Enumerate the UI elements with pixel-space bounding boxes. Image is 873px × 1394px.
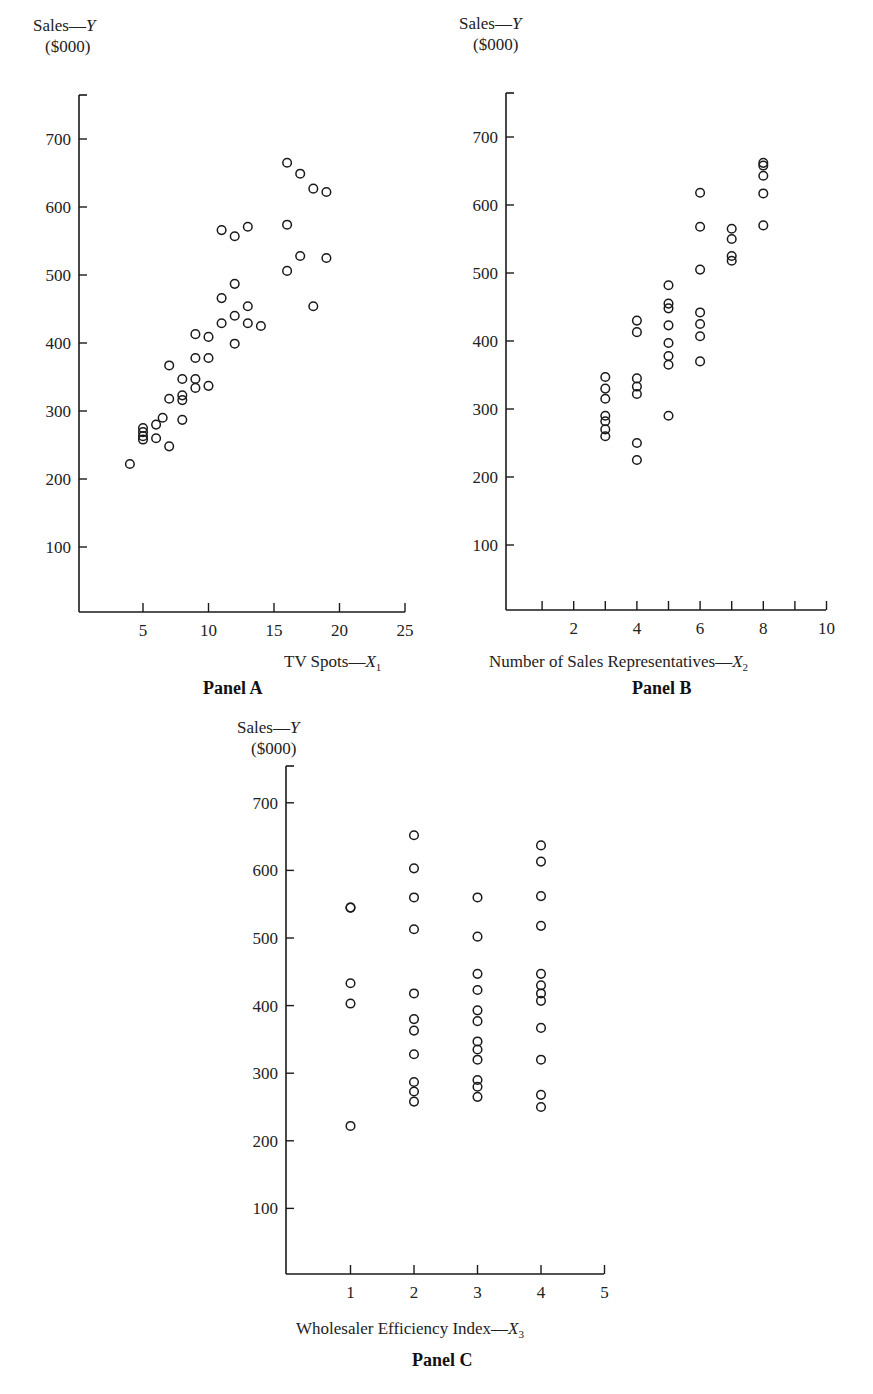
y-tick-label: 500 — [473, 264, 499, 283]
x-tick-label: 8 — [759, 619, 768, 638]
data-point — [410, 989, 419, 998]
data-point — [410, 925, 419, 934]
data-point — [296, 252, 305, 261]
data-point — [537, 1091, 546, 1100]
data-point — [230, 312, 239, 321]
data-point — [696, 265, 705, 274]
data-point — [217, 319, 226, 328]
panel-a-chart: 100200300400500600700510152025 — [46, 95, 414, 640]
data-point — [727, 225, 736, 234]
data-point — [633, 456, 642, 465]
data-point — [633, 316, 642, 325]
panel-c-ylabel: Sales—Y — [237, 718, 301, 737]
panel-b-title: Panel B — [632, 678, 692, 698]
data-point — [759, 171, 768, 180]
data-point — [410, 1026, 419, 1035]
x-tick-label: 1 — [346, 1283, 355, 1302]
data-point — [283, 220, 292, 229]
data-point — [204, 382, 213, 391]
data-point — [473, 1006, 482, 1015]
data-point — [257, 322, 266, 331]
data-point — [410, 893, 419, 902]
data-point — [664, 321, 673, 330]
data-point — [696, 332, 705, 341]
data-point — [217, 226, 226, 235]
data-point — [473, 1093, 482, 1102]
data-point — [410, 864, 419, 873]
data-point — [296, 169, 305, 178]
data-point — [473, 1055, 482, 1064]
data-point — [346, 1122, 355, 1131]
data-point — [537, 1024, 546, 1033]
data-point — [283, 159, 292, 168]
x-tick-label: 4 — [633, 619, 642, 638]
data-point — [217, 294, 226, 303]
x-tick-label: 10 — [200, 621, 217, 640]
data-point — [537, 1103, 546, 1112]
data-point — [204, 333, 213, 342]
y-tick-label: 400 — [253, 997, 279, 1016]
data-point — [601, 384, 610, 393]
y-tick-label: 600 — [253, 861, 279, 880]
data-point — [633, 374, 642, 383]
data-point — [537, 892, 546, 901]
y-tick-label: 200 — [253, 1132, 279, 1151]
data-point — [537, 970, 546, 979]
data-point — [244, 319, 253, 328]
data-point — [178, 375, 187, 384]
data-point — [158, 414, 167, 423]
data-point — [696, 222, 705, 231]
x-tick-label: 6 — [696, 619, 705, 638]
panel-b-ylabel-units: ($000) — [473, 35, 518, 54]
y-tick-label: 700 — [46, 130, 72, 149]
x-tick-label: 5 — [139, 621, 148, 640]
data-point — [633, 439, 642, 448]
data-point — [664, 281, 673, 290]
data-point — [191, 375, 200, 384]
data-point — [309, 184, 318, 193]
y-tick-label: 600 — [473, 196, 499, 215]
data-point — [664, 352, 673, 361]
data-point — [537, 841, 546, 850]
panel-a-title: Panel A — [203, 678, 263, 698]
data-point — [633, 328, 642, 337]
x-tick-label: 2 — [569, 619, 578, 638]
data-point — [346, 999, 355, 1008]
data-point — [322, 188, 331, 197]
y-tick-label: 700 — [473, 128, 499, 147]
data-point — [178, 416, 187, 425]
data-point — [473, 986, 482, 995]
data-point — [664, 339, 673, 348]
scatter-figure: 100200300400500600700510152025 Sales—Y (… — [0, 0, 873, 1394]
panel-a-ylabel-units: ($000) — [45, 37, 90, 56]
data-point — [191, 330, 200, 339]
data-point — [473, 893, 482, 902]
data-point — [473, 1037, 482, 1046]
panel-c-chart: 10020030040050060070012345 — [253, 766, 609, 1302]
data-point — [410, 1087, 419, 1096]
data-point — [410, 1078, 419, 1087]
data-point — [410, 1097, 419, 1106]
data-point — [204, 354, 213, 363]
x-tick-label: 2 — [410, 1283, 419, 1302]
y-tick-label: 100 — [253, 1199, 279, 1218]
data-point — [230, 232, 239, 241]
data-point — [759, 189, 768, 198]
x-tick-label: 5 — [600, 1283, 609, 1302]
data-point — [410, 1015, 419, 1024]
panel-c-title: Panel C — [412, 1350, 473, 1370]
y-tick-label: 400 — [46, 334, 72, 353]
y-tick-label: 300 — [46, 402, 72, 421]
data-point — [696, 188, 705, 197]
data-point — [759, 221, 768, 230]
panel-b-xlabel: Number of Sales Representatives—X2 — [489, 652, 748, 673]
data-point — [165, 442, 174, 451]
data-point — [696, 308, 705, 317]
data-point — [309, 302, 318, 311]
data-point — [165, 394, 174, 403]
y-tick-label: 500 — [253, 929, 279, 948]
panel-c-ylabel-units: ($000) — [251, 739, 296, 758]
x-tick-label: 20 — [331, 621, 348, 640]
x-tick-label: 10 — [818, 619, 835, 638]
data-point — [473, 1045, 482, 1054]
